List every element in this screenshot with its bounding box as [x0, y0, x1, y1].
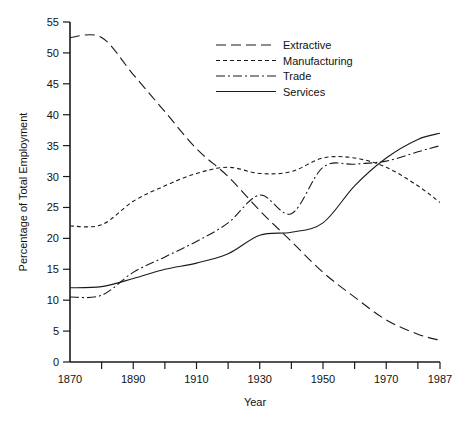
legend-label-manufacturing[interactable]: Manufacturing: [283, 55, 353, 67]
chart-legend: ExtractiveManufacturingTradeServices: [216, 39, 353, 98]
legend-label-services[interactable]: Services: [283, 86, 326, 98]
x-tick-label: 1987: [428, 373, 452, 385]
y-tick-label: 55: [47, 16, 59, 28]
series-line-services: [70, 133, 440, 288]
x-tick-label: 1870: [58, 373, 82, 385]
legend-label-trade[interactable]: Trade: [283, 70, 311, 82]
y-tick-label: 25: [47, 201, 59, 213]
series-group: [70, 35, 440, 341]
y-tick-label: 20: [47, 232, 59, 244]
y-tick-label: 35: [47, 140, 59, 152]
y-axis-ticks: 0510152025303540455055: [47, 16, 70, 368]
x-tick-label: 1930: [248, 373, 272, 385]
y-tick-label: 10: [47, 294, 59, 306]
series-line-manufacturing: [70, 157, 440, 227]
y-tick-label: 15: [47, 263, 59, 275]
employment-share-line-chart: 0510152025303540455055 18701890191019301…: [0, 0, 472, 425]
chart-canvas: 0510152025303540455055 18701890191019301…: [0, 0, 472, 425]
x-tick-label: 1910: [184, 373, 208, 385]
x-tick-label: 1950: [311, 373, 335, 385]
series-line-trade: [70, 146, 440, 298]
legend-label-extractive[interactable]: Extractive: [283, 39, 331, 51]
y-tick-label: 5: [53, 325, 59, 337]
y-tick-label: 45: [47, 78, 59, 90]
x-axis-ticks: 1870189019101930195019701987: [58, 362, 452, 385]
series-line-extractive: [70, 35, 440, 341]
y-tick-label: 50: [47, 47, 59, 59]
x-tick-label: 1970: [374, 373, 398, 385]
x-tick-label: 1890: [121, 373, 145, 385]
x-axis-title: Year: [244, 396, 267, 408]
y-tick-label: 30: [47, 171, 59, 183]
y-axis-title: Percentage of Total Employment: [17, 113, 29, 272]
y-tick-label: 40: [47, 109, 59, 121]
y-tick-label: 0: [53, 356, 59, 368]
